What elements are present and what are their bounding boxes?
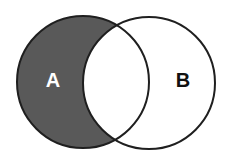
venn-diagram: A B <box>0 0 229 161</box>
label-a: A <box>46 69 60 91</box>
label-b: B <box>176 69 190 91</box>
